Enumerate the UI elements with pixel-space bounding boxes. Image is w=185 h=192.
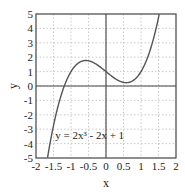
- equation-annotation: y = 2x³ - 2x + 1: [55, 129, 124, 141]
- x-tick-label: 2: [173, 160, 179, 172]
- y-tick-label: -1: [24, 94, 33, 106]
- y-tick-label: 3: [28, 37, 34, 49]
- y-tick-label: 0: [28, 80, 34, 92]
- x-tick-label: 0.5: [117, 160, 131, 172]
- x-tick-labels: -2-1.5-1-0.500.511.52: [31, 160, 178, 172]
- y-tick-label: -2: [24, 109, 33, 121]
- x-tick-label: -1: [66, 160, 75, 172]
- x-tick-label: -1.5: [45, 160, 63, 172]
- y-axis-label: y: [6, 83, 20, 89]
- y-tick-label: 5: [28, 8, 34, 20]
- y-tick-label: -3: [24, 123, 34, 135]
- y-tick-label: 4: [28, 22, 34, 34]
- x-tick-label: -0.5: [80, 160, 98, 172]
- y-tick-label: -5: [24, 152, 34, 164]
- x-tick-label: 0: [103, 160, 109, 172]
- y-tick-label: -4: [24, 138, 34, 150]
- y-tick-labels: -5-4-3-2-1012345: [24, 8, 34, 164]
- x-tick-label: 1.5: [152, 160, 166, 172]
- cubic-function-chart: -2-1.5-1-0.500.511.52 -5-4-3-2-1012345 y…: [0, 0, 185, 192]
- chart-canvas: -2-1.5-1-0.500.511.52 -5-4-3-2-1012345 y…: [0, 0, 185, 192]
- x-tick-label: 1: [138, 160, 144, 172]
- y-tick-label: 1: [28, 66, 34, 78]
- y-tick-label: 2: [28, 51, 34, 63]
- x-axis-label: x: [103, 176, 109, 190]
